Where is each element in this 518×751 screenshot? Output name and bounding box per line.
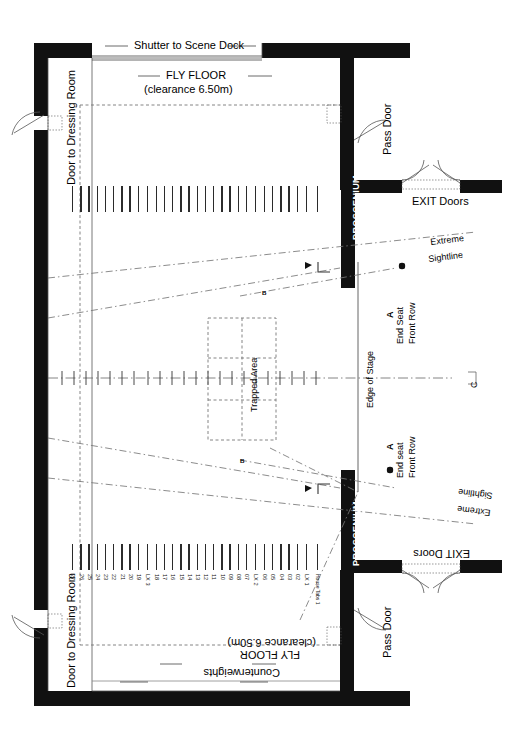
fly-bar-label: 05: [270, 574, 276, 580]
fly-bar-label: 27: [70, 574, 76, 580]
fly-bar-tick: [255, 544, 256, 570]
fly-bar-tick: [238, 186, 239, 212]
fly-bar-tick: [138, 544, 139, 570]
fly-bar-tick: [97, 186, 98, 212]
fly-bar-tick: [205, 544, 206, 570]
fly-bar-tick: [180, 544, 181, 570]
fly-bar-tick: [156, 186, 157, 212]
fly-bar-label: 19: [136, 574, 142, 580]
fly-bar-tick: [147, 544, 148, 570]
label-clearance-top: (clearance 6.50m): [144, 84, 233, 95]
fly-bar-tick: [264, 544, 265, 570]
fly-bar-label: 07: [244, 574, 250, 580]
fly-bar-label: 16: [170, 574, 176, 580]
fly-bar-tick: [272, 186, 273, 212]
fly-bar-tick: [255, 186, 256, 212]
fly-bar-tick: [221, 186, 222, 212]
fly-bar-label: 25: [87, 574, 93, 580]
fly-bar-tick: [197, 544, 198, 570]
fly-bar-tick: [229, 544, 230, 570]
label-door-dressing-room-top: Door to Dressing Room: [66, 70, 77, 185]
fly-bar-label: 03: [287, 574, 293, 580]
label-end-seat-upper-line1: End Seat: [396, 307, 405, 344]
fly-bar-tick: [306, 186, 307, 212]
label-proscenium-bottom: PROSCENIUM: [352, 501, 361, 566]
fly-bar-label: House Tabs 1: [315, 574, 321, 604]
fly-bar-tick: [164, 186, 165, 212]
fly-bar-tick: [105, 544, 106, 570]
fly-bar-label: 17: [162, 574, 168, 580]
label-shutter-to-scene-dock: Shutter to Scene Dock: [134, 40, 244, 51]
label-pass-door-bottom: Pass Door: [382, 607, 393, 658]
fly-bar-tick: [288, 544, 289, 570]
label-end-seat-lower-line1: End seat: [396, 442, 405, 478]
fly-bar-tick: [221, 544, 222, 570]
label-proscenium-top: PROSCENIUM: [352, 175, 361, 240]
fly-bar-tick: [88, 544, 89, 570]
label-end-seat-lower-line2: Front Row: [408, 436, 417, 478]
fly-bar-label: 04: [279, 574, 285, 580]
fly-bar-label: 22: [111, 574, 117, 580]
fly-bar-tick: [188, 544, 189, 570]
fly-bar-label: 18: [154, 574, 160, 580]
fly-bar-label: 08: [236, 574, 242, 580]
label-fly-floor-top: FLY FLOOR: [166, 70, 226, 81]
fly-bar-tick: [229, 186, 230, 212]
fly-bar-tick: [297, 186, 298, 212]
fly-bar-tick: [213, 186, 214, 212]
fly-bar-tick: [121, 186, 122, 212]
fly-bar-label: 06: [262, 574, 268, 580]
label-end-seat-upper-line2: Front Row: [408, 302, 417, 344]
fly-bar-label: 20: [128, 574, 134, 580]
fly-bar-label: 26: [79, 574, 85, 580]
label-exit-doors-top: EXIT Doors: [412, 196, 469, 207]
label-counterweights: Counterweights: [204, 667, 280, 678]
fly-bar-tick: [172, 186, 173, 212]
fly-bar-label: LX 1: [304, 574, 310, 586]
fly-bar-tick: [306, 544, 307, 570]
fly-bar-tick: [72, 186, 73, 212]
fly-bar-tick: [105, 186, 106, 212]
label-clearance-bottom: (clearance 6.50m): [227, 637, 316, 648]
fly-bar-tick: [138, 186, 139, 212]
fly-bar-tick: [197, 186, 198, 212]
fly-bar-label: 10: [220, 574, 226, 580]
fly-bar-tick: [156, 544, 157, 570]
fly-bar-tick: [317, 186, 318, 212]
fly-bar-label: 21: [120, 574, 126, 580]
fly-bar-tick: [88, 186, 89, 212]
fly-bar-label: 12: [203, 574, 209, 580]
fly-bar-tick: [264, 186, 265, 212]
fly-bar-label: 15: [179, 574, 185, 580]
fly-bar-tick: [205, 186, 206, 212]
fly-bar-tick: [238, 544, 239, 570]
label-sightline-a-lower: A: [386, 444, 395, 451]
fly-bar-tick: [317, 544, 318, 570]
fly-bar-label: 02: [295, 574, 301, 580]
label-fly-floor-bottom: FLY FLOOR: [240, 649, 300, 660]
fly-bar-tick: [164, 544, 165, 570]
fly-bar-label: 14: [187, 574, 193, 580]
fly-bar-tick: [147, 186, 148, 212]
fly-bar-label: LX 3: [145, 574, 151, 586]
fly-bar-tick: [272, 544, 273, 570]
fly-bar-tick: [288, 186, 289, 212]
fly-bar-label: 23: [103, 574, 109, 580]
label-exit-doors-bottom: EXIT Doors: [413, 548, 470, 559]
fly-bar-label: LX 2: [253, 574, 259, 586]
fly-bar-tick: [280, 186, 281, 212]
fly-bar-tick: [80, 186, 81, 212]
fly-bar-tick: [280, 544, 281, 570]
fly-bar-tick: [180, 186, 181, 212]
fly-bar-tick: [297, 544, 298, 570]
fly-bar-label: 24: [95, 574, 101, 580]
fly-bar-tick: [113, 186, 114, 212]
fly-bar-label: 09: [228, 574, 234, 580]
label-edge-of-stage: Edge of Stage: [366, 351, 375, 408]
fly-bar-tick: [246, 186, 247, 212]
label-sightline-a-upper: A: [386, 312, 395, 319]
label-door-dressing-room-bottom: Door to Dressing Room: [66, 573, 77, 688]
fly-bar-tick: [80, 544, 81, 570]
fly-bar-tick: [121, 544, 122, 570]
fly-bar-tick: [97, 544, 98, 570]
